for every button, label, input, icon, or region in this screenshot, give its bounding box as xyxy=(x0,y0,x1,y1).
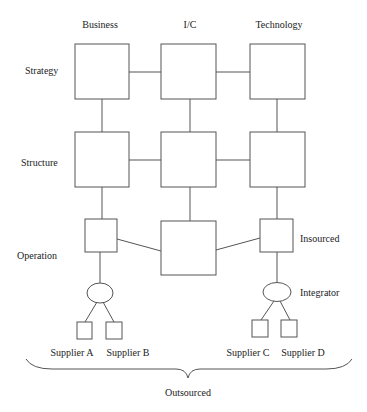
box-ic-operation xyxy=(161,221,216,275)
label-supplier-a: Supplier A xyxy=(50,347,94,358)
label-integrator: Integrator xyxy=(300,287,340,298)
column-header-business: Business xyxy=(82,19,118,30)
box-supplier-b xyxy=(106,322,122,339)
column-header-ic: I/C xyxy=(184,19,197,30)
outsourced-brace xyxy=(26,359,352,378)
box-business-strategy xyxy=(75,44,129,99)
connector xyxy=(103,302,114,322)
connector xyxy=(261,301,274,320)
box-business-operation xyxy=(85,219,117,252)
box-supplier-d xyxy=(281,320,297,337)
integrator-node-business xyxy=(87,283,113,303)
box-ic-structure xyxy=(161,132,216,187)
box-technology-strategy xyxy=(250,44,305,99)
label-supplier-b: Supplier B xyxy=(106,347,149,358)
connector xyxy=(280,301,290,320)
box-business-structure xyxy=(75,132,129,187)
integrator-node-technology xyxy=(263,283,291,302)
box-ic-strategy xyxy=(161,44,216,99)
row-label-operation: Operation xyxy=(17,250,57,261)
row-label-strategy: Strategy xyxy=(25,65,58,76)
box-supplier-c xyxy=(252,320,268,337)
connector xyxy=(85,302,97,322)
column-header-technology: Technology xyxy=(255,19,302,30)
label-supplier-c: Supplier C xyxy=(226,347,269,358)
box-supplier-a xyxy=(77,322,92,339)
label-insourced: Insourced xyxy=(300,233,339,244)
connector xyxy=(216,238,260,250)
box-technology-structure xyxy=(250,132,305,187)
connector xyxy=(117,239,161,251)
label-outsourced: Outsourced xyxy=(165,387,211,398)
row-label-structure: Structure xyxy=(21,157,58,168)
label-supplier-d: Supplier D xyxy=(281,347,325,358)
framework-diagram: Business I/C Technology Strategy Structu… xyxy=(0,0,367,412)
box-technology-operation xyxy=(260,219,293,252)
